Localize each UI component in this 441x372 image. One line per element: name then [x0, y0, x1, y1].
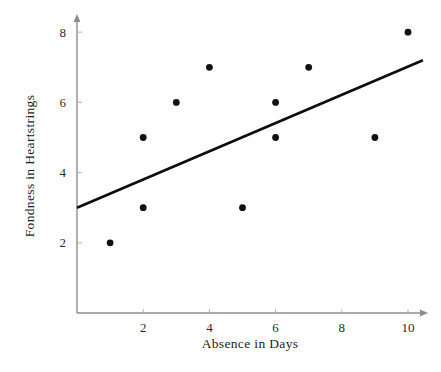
plot-canvas: 246810 2468 Absence in Days Fondness in … [0, 0, 441, 372]
x-tick-label: 4 [206, 320, 213, 335]
y-tick-label: 2 [60, 235, 67, 250]
chart-background [0, 0, 441, 372]
data-point [173, 99, 180, 106]
y-tick-label: 6 [60, 95, 67, 110]
x-tick-label: 6 [272, 320, 279, 335]
data-point [372, 134, 379, 141]
data-point [305, 64, 312, 71]
x-tick-label: 10 [402, 320, 415, 335]
data-point [272, 99, 279, 106]
data-point [239, 204, 246, 211]
y-axis-title: Fondness in Heartstrings [22, 95, 37, 238]
y-tick-label: 4 [60, 165, 67, 180]
x-tick-label: 8 [339, 320, 346, 335]
scatter-chart: 246810 2468 Absence in Days Fondness in … [0, 0, 441, 372]
data-point [405, 29, 412, 36]
data-point [140, 134, 147, 141]
x-tick-label: 2 [140, 320, 147, 335]
y-tick-label: 8 [60, 25, 67, 40]
data-point [107, 239, 114, 246]
data-point [206, 64, 213, 71]
x-axis-title: Absence in Days [202, 336, 299, 351]
data-point [272, 134, 279, 141]
data-point [140, 204, 147, 211]
